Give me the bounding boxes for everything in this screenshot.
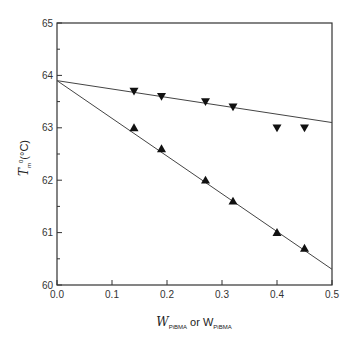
y-tick-label: 62 <box>42 175 54 186</box>
y-axis-title: Tm0(°C) <box>17 140 32 176</box>
x-tick-label: 0.2 <box>160 289 174 300</box>
y-tick-label: 64 <box>42 70 54 81</box>
triangle-down-marker <box>273 124 282 132</box>
data-markers <box>130 88 310 252</box>
triangle-down-marker <box>201 98 210 106</box>
fit-line <box>57 81 332 270</box>
x-tick-label: 0.5 <box>325 289 339 300</box>
x-tick-label: 0.3 <box>215 289 229 300</box>
triangle-up-marker <box>157 144 166 152</box>
y-tick-label: 65 <box>42 18 54 29</box>
triangle-up-marker <box>201 176 210 184</box>
x-axis-title: WPiBMA or WPiBMA <box>156 315 231 330</box>
x-axis-ticks: 0.00.10.20.30.40.5 <box>50 280 339 300</box>
triangle-up-marker <box>130 123 139 131</box>
chart: 606162636465 0.00.10.20.30.40.5 WPiBMA o… <box>0 0 356 342</box>
x-tick-label: 0.4 <box>270 289 284 300</box>
fit-line <box>57 81 332 123</box>
x-tick-label: 0.1 <box>105 289 119 300</box>
y-axis-ticks: 606162636465 <box>42 18 62 291</box>
triangle-up-marker <box>229 197 238 205</box>
triangle-down-marker <box>300 124 309 132</box>
y-tick-label: 63 <box>42 122 54 133</box>
plot-frame <box>57 23 332 285</box>
x-tick-label: 0.0 <box>50 289 64 300</box>
fit-lines <box>57 81 332 270</box>
y-tick-label: 61 <box>42 227 54 238</box>
